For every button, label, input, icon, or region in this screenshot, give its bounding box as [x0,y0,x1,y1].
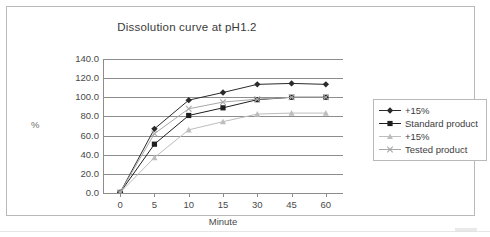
x-axis-tick-label: 0 [105,199,135,210]
x-axis-tick-label: 60 [311,199,341,210]
legend-item-label: Tested product [403,144,467,155]
legend-item: +15% [377,130,483,143]
scan-artifact [455,228,477,232]
data-point-diamond [220,89,226,95]
x-axis-tick-mark [120,193,121,197]
data-point-square [387,121,392,126]
series-polyline [120,83,326,192]
x-axis-tick-mark [189,193,190,197]
data-point-diamond [387,107,393,113]
y-axis-tick-label: 0.0 [86,187,99,198]
series-line [118,95,329,193]
x-axis-tick-mark [257,193,258,197]
x-axis-tick-label: 15 [208,199,238,210]
y-axis-title: % [31,119,39,130]
series-polyline [120,97,326,192]
data-point-diamond [323,81,329,87]
y-axis-tick-label: 20.0 [81,168,100,179]
x-axis-tick-label: 30 [242,199,272,210]
x-axis-tick-label: 45 [277,199,307,210]
x-axis-tick-mark [292,193,293,197]
x-axis-title: Minute [103,216,343,227]
x-axis-tick-marks [103,193,343,198]
page-bottom-rule [0,231,490,232]
legend-item-label: +15% [403,105,430,116]
x-axis-tick-mark [326,193,327,197]
data-point-square [186,113,191,118]
legend-marker-triangle [377,130,403,143]
data-point-square [152,142,157,147]
x-axis-tick-label: 5 [139,199,169,210]
y-axis-tick-label: 80.0 [81,110,100,121]
legend-marker-diamond [377,104,403,117]
data-point-diamond [254,81,260,87]
y-axis-tick-labels: 0.020.040.060.080.0100.0120.0140.0 [43,59,99,193]
x-axis-tick-mark [154,193,155,197]
series-polyline [120,113,326,192]
legend-item: Tested product [377,143,483,156]
chart-legend: +15%Standard product+15%Tested product [373,99,487,161]
legend-item-label: +15% [403,131,430,142]
chart-frame: Dissolution curve at pH1.2 % 0.020.040.0… [6,6,475,216]
y-axis-tick-label: 140.0 [75,53,99,64]
y-axis-tick-label: 100.0 [75,91,99,102]
data-point-diamond [288,80,294,86]
x-axis-tick-labels: 051015304560 [103,199,343,213]
legend-item: +15% [377,104,483,117]
y-axis-tick-label: 60.0 [81,130,100,141]
legend-item: Standard product [377,117,483,130]
legend-marker-cross [377,143,403,156]
series-layer [103,59,343,193]
y-axis-tick-label: 120.0 [75,72,99,83]
chart-title: Dissolution curve at pH1.2 [7,21,367,33]
x-axis-tick-mark [223,193,224,197]
y-axis-tick-label: 40.0 [81,149,100,160]
data-point-square [220,105,225,110]
x-axis-tick-label: 10 [174,199,204,210]
legend-item-label: Standard product [403,118,478,129]
series-polyline [120,97,326,192]
legend-marker-square [377,117,403,130]
